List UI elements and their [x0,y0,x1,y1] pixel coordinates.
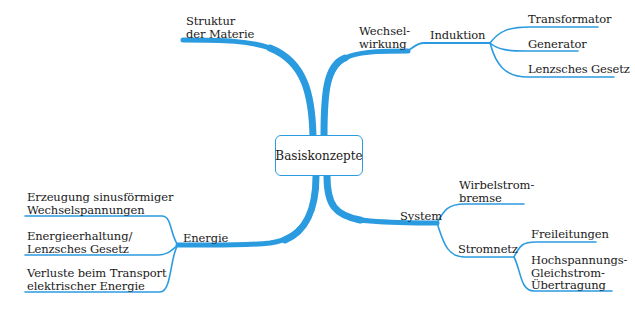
node-label: Lenzsches Gesetz [528,62,630,76]
branch-struktur-line [183,40,313,136]
node-stromnetz[interactable]: Stromnetz [458,243,518,256]
node-label-line: Wechsel- [359,25,410,38]
node-label-line: Lenzsches Gesetz [27,243,132,256]
node-freileitungen[interactable]: Freileitungen [531,228,609,241]
node-label: Transformator [528,12,612,26]
node-label-line: Wechselspannungen [27,204,173,217]
node-label-line: Übertragung [531,279,627,292]
node-label: System [400,209,442,223]
wirbelstrombremse-line [437,204,524,223]
node-struktur-der-materie[interactable]: Struktur der Materie [186,15,254,40]
node-energieerhaltung[interactable]: Energieerhaltung/ Lenzsches Gesetz [27,230,132,255]
node-label: Generator [528,37,587,51]
node-label-line: Energieerhaltung/ [27,230,132,243]
node-energie[interactable]: Energie [183,232,228,245]
node-wirbelstrombremse[interactable]: Wirbelstrom- bremse [459,179,534,204]
node-label-line: Erzeugung sinusförmiger [27,191,173,204]
node-lenzsches-gesetz[interactable]: Lenzsches Gesetz [528,63,630,76]
center-node-label: Basiskonzepte [275,149,362,163]
node-wechselwirkung[interactable]: Wechsel- wirkung [359,25,410,50]
node-label: Energie [183,231,228,245]
node-label-line: Struktur [186,15,254,28]
node-label-line: bremse [459,192,534,205]
node-label-line: Hochspannungs- [531,254,627,267]
node-label: Freileitungen [531,227,609,241]
center-node-basiskonzepte[interactable]: Basiskonzepte [275,135,363,176]
node-label-line: Wirbelstrom- [459,179,534,192]
node-verluste-beim-transport[interactable]: Verluste beim Transport elektrischer Ene… [27,267,166,292]
node-erzeugung-sinusfoermiger-wechselspannungen[interactable]: Erzeugung sinusförmiger Wechselspannunge… [27,191,173,216]
node-induktion[interactable]: Induktion [430,29,485,42]
node-transformator[interactable]: Transformator [528,13,612,26]
node-system[interactable]: System [400,210,442,223]
node-label-line: der Materie [186,28,254,41]
node-label: Induktion [430,28,485,42]
node-hochspannungs-gleichstrom-uebertragung[interactable]: Hochspannungs- Gleichstrom- Übertragung [531,254,627,292]
induktion-line [405,43,490,51]
node-label-line: elektrischer Energie [27,280,166,293]
node-label: Stromnetz [458,242,518,256]
node-generator[interactable]: Generator [528,38,587,51]
node-label-line: wirkung [359,38,410,51]
node-label-line: Verluste beim Transport [27,267,166,280]
